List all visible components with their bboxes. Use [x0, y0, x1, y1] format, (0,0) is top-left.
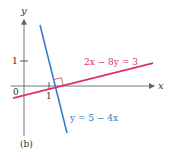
- y-tick-label: 1: [12, 56, 18, 66]
- series-line-pink: [13, 63, 153, 98]
- x-tick-label: 1: [46, 91, 52, 101]
- panel-label: (b): [20, 139, 33, 149]
- origin-label: 0: [13, 87, 19, 97]
- x-axis-label: x: [158, 80, 164, 91]
- y-axis-label: y: [20, 5, 27, 16]
- chart: x y 0 1 1 y = 5 − 4x 2x − 8y = 3 (b): [0, 0, 170, 160]
- series-label-blue: y = 5 − 4x: [69, 113, 118, 123]
- series-line-blue: [40, 25, 67, 133]
- series-label-pink: 2x − 8y = 3: [84, 57, 138, 67]
